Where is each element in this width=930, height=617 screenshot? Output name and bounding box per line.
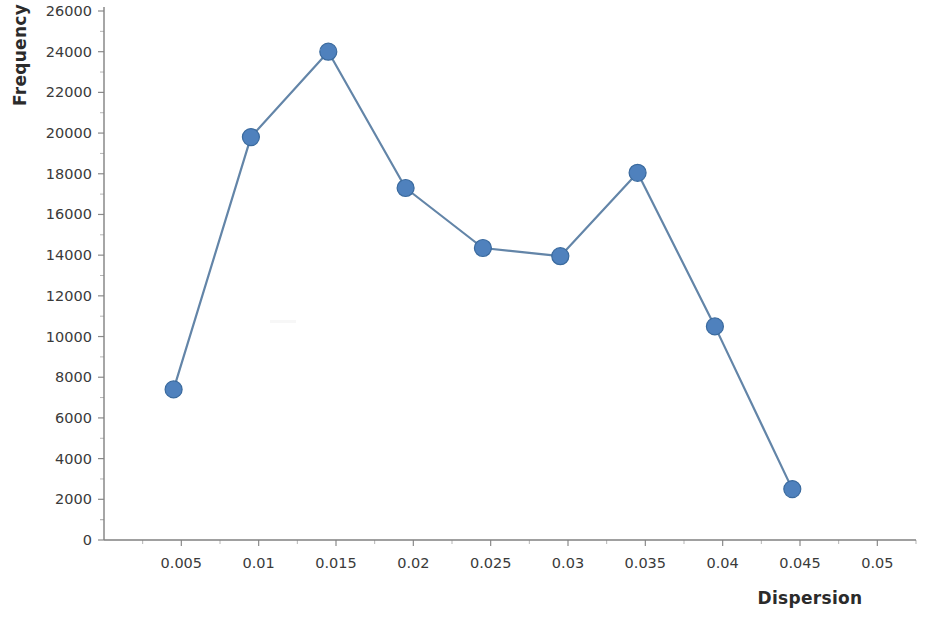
data-point-marker [165, 381, 182, 398]
y-tick-label: 12000 [46, 288, 92, 304]
y-tick-label: 16000 [46, 206, 92, 222]
y-tick-label: 22000 [46, 84, 92, 100]
y-tick-label: 6000 [55, 410, 92, 426]
y-tick-label: 18000 [46, 166, 92, 182]
data-point-marker [552, 248, 569, 265]
x-tick-label: 0.05 [861, 555, 893, 571]
x-tick-label: 0.005 [161, 555, 203, 571]
x-tick-label: 0.01 [243, 555, 275, 571]
y-tick-label: 10000 [46, 329, 92, 345]
data-point-marker [474, 240, 491, 257]
x-axis-tick-labels: 0.0050.010.0150.020.0250.030.0350.040.04… [161, 555, 894, 571]
y-tick-label: 26000 [46, 3, 92, 19]
data-point-marker [397, 180, 414, 197]
x-tick-label: 0.045 [779, 555, 821, 571]
x-tick-label: 0.025 [470, 555, 512, 571]
data-point-marker [784, 481, 801, 498]
x-axis-ticks [143, 540, 916, 546]
data-point-marker [706, 318, 723, 335]
x-tick-label: 0.035 [625, 555, 667, 571]
axis-lines [104, 7, 916, 540]
y-tick-label: 20000 [46, 125, 92, 141]
y-tick-label: 0 [83, 532, 92, 548]
chart-screenshot: Frequency Dispersion 0200040006000800010… [0, 0, 930, 617]
y-tick-label: 2000 [55, 491, 92, 507]
data-point-marker [629, 164, 646, 181]
x-tick-label: 0.03 [552, 555, 584, 571]
x-tick-label: 0.015 [315, 555, 357, 571]
x-tick-label: 0.02 [397, 555, 429, 571]
series-polyline [174, 52, 793, 489]
data-point-marker [242, 129, 259, 146]
y-tick-label: 14000 [46, 247, 92, 263]
y-tick-label: 24000 [46, 44, 92, 60]
line-chart-plot: 0200040006000800010000120001400016000180… [0, 0, 930, 617]
y-tick-label: 4000 [55, 451, 92, 467]
data-series [165, 43, 801, 497]
y-axis-ticks [98, 11, 104, 540]
x-tick-label: 0.04 [707, 555, 739, 571]
y-tick-label: 8000 [55, 369, 92, 385]
data-point-marker [320, 43, 337, 60]
y-axis-tick-labels: 0200040006000800010000120001400016000180… [46, 3, 92, 548]
